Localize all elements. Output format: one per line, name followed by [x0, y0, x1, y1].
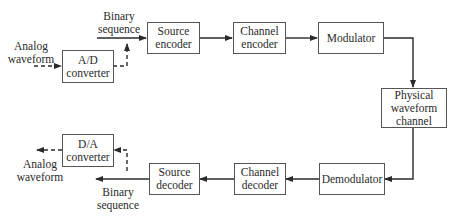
source-encoder-block: Source encoder — [147, 22, 200, 54]
channel-encoder-block: Channel encoder — [233, 22, 286, 54]
analog-waveform-input-label: Analog waveform — [1, 40, 61, 66]
physical-waveform-channel-block: Physical waveform channel — [381, 88, 447, 128]
demodulator-block: Demodulator — [319, 163, 385, 195]
da-converter-block: D/A converter — [62, 134, 114, 167]
communication-system-diagram: Analog waveform Binary sequence Analog w… — [0, 0, 461, 216]
channel-decoder-block: Channel decoder — [234, 163, 286, 195]
binary-sequence-output-label: Binary sequence — [87, 186, 149, 212]
ad-converter-block: A/D converter — [62, 50, 114, 83]
analog-waveform-output-label: Analog waveform — [10, 158, 70, 184]
modulator-block: Modulator — [318, 22, 384, 54]
source-decoder-block: Source decoder — [149, 163, 200, 195]
binary-sequence-input-label: Binary sequence — [88, 10, 150, 36]
